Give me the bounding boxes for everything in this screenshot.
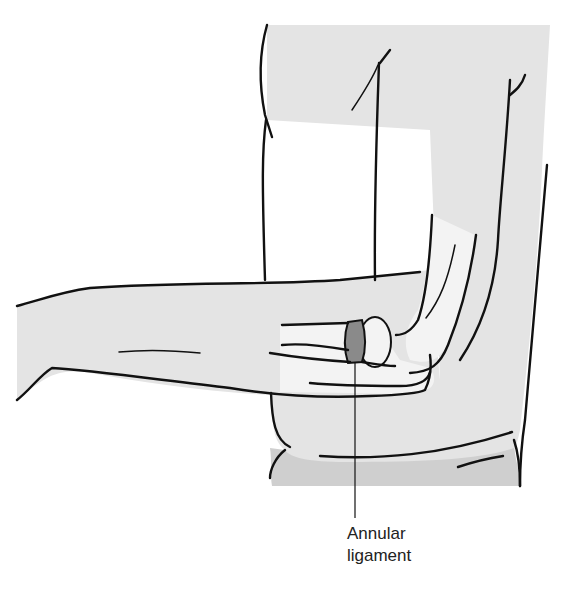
arm-drawing [0,0,577,592]
illustration: Annular ligament [0,0,577,592]
annular-ligament [345,320,365,363]
label-line-2: ligament [347,545,411,567]
annular-ligament-label: Annular ligament [347,523,411,567]
label-line-1: Annular [347,523,411,545]
